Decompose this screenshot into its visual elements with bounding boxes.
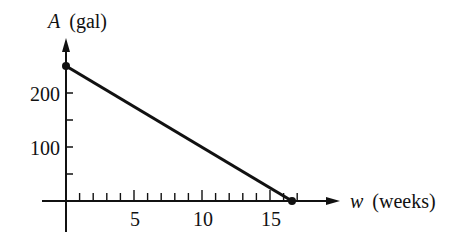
x-ticks xyxy=(80,190,298,201)
x-tick-label-5: 5 xyxy=(130,208,140,230)
x-axis-arrow-icon xyxy=(326,197,340,205)
x-axis-var: w xyxy=(350,190,364,212)
y-tick-label-100: 100 xyxy=(30,137,60,159)
start-point xyxy=(62,62,70,70)
x-tick-label-15: 15 xyxy=(261,208,281,230)
x-tick-label-10: 10 xyxy=(193,208,213,230)
x-axis-label: w (weeks) xyxy=(350,190,436,213)
end-point xyxy=(288,197,296,205)
y-axis-label: A (gal) xyxy=(46,10,107,33)
y-axis-unit: (gal) xyxy=(69,10,107,33)
y-axis-var: A xyxy=(46,10,61,32)
y-ticks xyxy=(66,93,73,174)
chart: 200 100 5 10 15 A (gal) w (weeks) xyxy=(0,0,460,248)
data-line xyxy=(66,66,292,201)
y-axis-arrow-icon xyxy=(62,38,70,52)
x-axis-unit: (weeks) xyxy=(372,190,435,213)
y-tick-label-200: 200 xyxy=(30,83,60,105)
